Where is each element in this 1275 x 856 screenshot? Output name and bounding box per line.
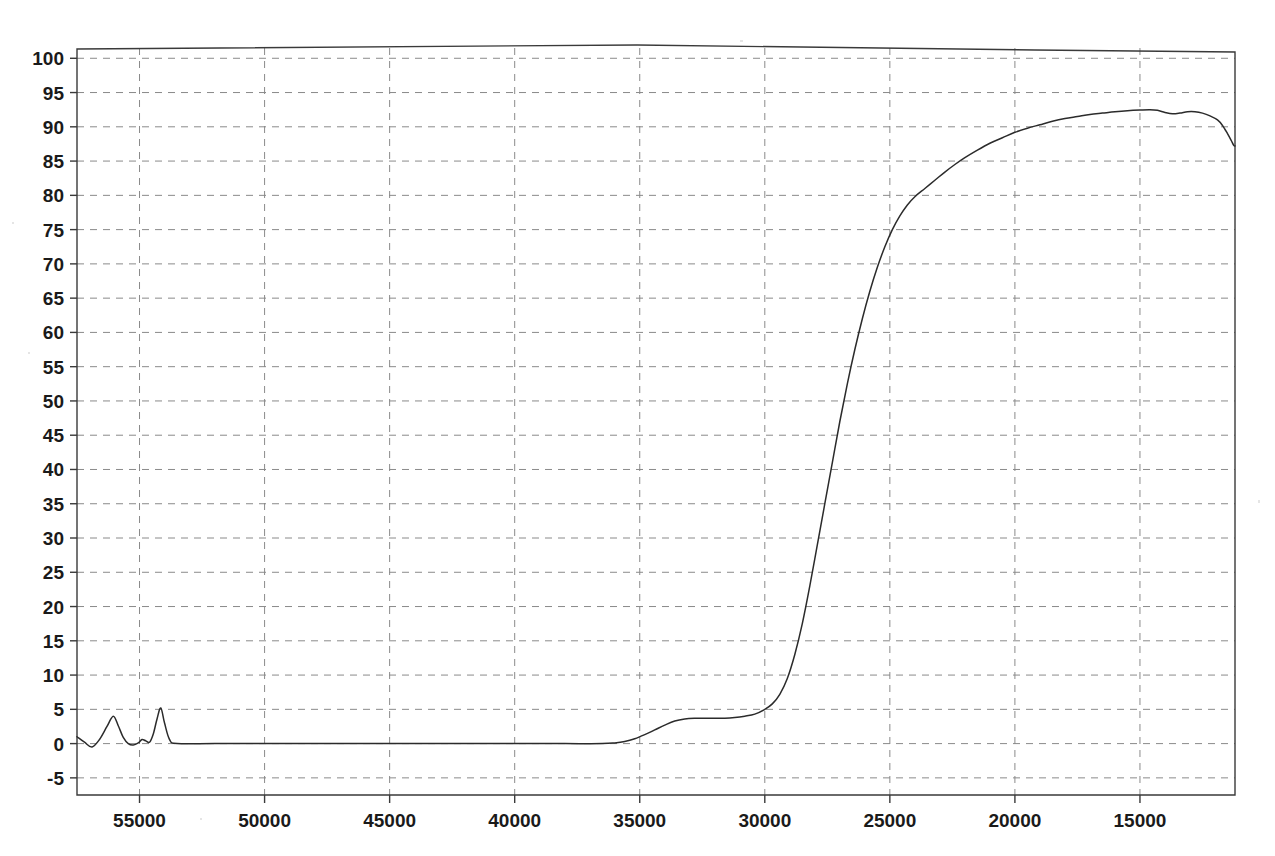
y-axis-tick-label: 50	[43, 391, 64, 412]
y-axis-tick-label: 0	[53, 734, 64, 755]
y-axis-tick-label: 5	[53, 699, 64, 720]
y-axis-tick-label: 40	[43, 459, 64, 480]
x-axis-tick-label: 45000	[363, 810, 416, 831]
scan-speck	[740, 40, 743, 42]
y-axis-tick-label: 60	[43, 322, 64, 343]
spectrum-plot: -505101520253035404550556065707580859095…	[0, 0, 1275, 856]
x-axis-tick-label: 15000	[1114, 810, 1167, 831]
x-axis-tick-label: 55000	[113, 810, 166, 831]
y-axis-tick-label: 30	[43, 528, 64, 549]
y-axis-tick-label: 70	[43, 254, 64, 275]
scan-speck	[28, 352, 30, 354]
x-axis-tick-label: 20000	[988, 810, 1041, 831]
y-axis-tick-label: 65	[43, 288, 65, 309]
x-axis-tick-label: 25000	[863, 810, 916, 831]
y-axis-tick-label: 35	[43, 494, 65, 515]
y-axis-tick-label: 15	[43, 631, 65, 652]
y-axis-tick-label: 25	[43, 562, 65, 583]
y-axis-tick-label: -5	[47, 768, 64, 789]
scan-speck	[150, 820, 152, 822]
y-axis-tick-label: 95	[43, 83, 65, 104]
scan-speck	[12, 222, 14, 224]
y-axis-tick-label: 85	[43, 151, 65, 172]
chart-container: -505101520253035404550556065707580859095…	[0, 0, 1275, 856]
y-axis-tick-label: 10	[43, 665, 64, 686]
x-axis-tick-label: 50000	[238, 810, 291, 831]
scan-speck	[1258, 500, 1260, 503]
plot-background	[0, 0, 1275, 856]
y-axis-tick-label: 45	[43, 425, 65, 446]
x-axis-tick-labels: 5500050000450004000035000300002500020000…	[113, 810, 1166, 831]
y-axis-tick-label: 55	[43, 357, 65, 378]
x-axis-tick-label: 40000	[488, 810, 541, 831]
x-axis-tick-label: 35000	[613, 810, 666, 831]
y-axis-tick-label: 100	[32, 48, 64, 69]
scan-speck	[200, 818, 202, 820]
x-axis-tick-label: 30000	[738, 810, 791, 831]
y-axis-tick-label: 90	[43, 117, 64, 138]
y-axis-tick-label: 20	[43, 597, 64, 618]
y-axis-tick-label: 75	[43, 220, 65, 241]
y-axis-tick-label: 80	[43, 185, 64, 206]
